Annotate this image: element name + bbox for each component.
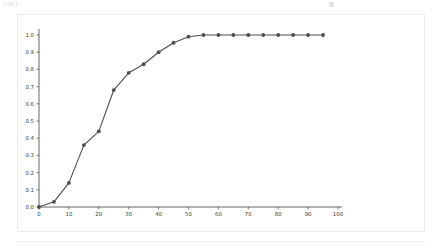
data-point-marker xyxy=(97,129,101,133)
below-panel-strip xyxy=(0,238,438,252)
data-point-marker xyxy=(246,33,250,37)
matplotlib-figure: 0.00.10.20.30.40.50.60.70.80.91.00102030… xyxy=(18,15,424,231)
data-point-marker xyxy=(142,62,146,66)
data-point-marker xyxy=(127,71,131,75)
y-axis-tick-label: 0.0 xyxy=(25,204,34,210)
data-point-marker xyxy=(187,35,191,39)
y-axis-tick-label: 0.6 xyxy=(25,101,34,107)
y-axis-tick-label: 0.5 xyxy=(25,118,34,124)
y-axis-tick-label: 0.3 xyxy=(25,152,34,158)
y-axis-tick-label: 0.7 xyxy=(25,84,34,90)
figure-output-panel: 0.00.10.20.30.40.50.60.70.80.91.00102030… xyxy=(17,14,425,232)
data-point-marker xyxy=(321,33,325,37)
data-point-marker xyxy=(202,33,206,37)
data-point-marker xyxy=(52,200,56,204)
data-point-marker xyxy=(261,33,265,37)
y-axis-tick-label: 1.0 xyxy=(25,32,34,38)
x-axis-tick-label: 30 xyxy=(125,211,132,217)
data-point-marker xyxy=(112,88,116,92)
data-point-marker xyxy=(67,181,71,185)
data-point-marker xyxy=(217,33,221,37)
y-axis-tick-label: 0.2 xyxy=(25,170,34,176)
cell-prompt-label: [28]: xyxy=(3,1,22,9)
y-axis-tick-label: 0.9 xyxy=(25,49,34,55)
x-axis-tick-label: 90 xyxy=(305,211,312,217)
data-point-marker xyxy=(82,143,86,147)
x-axis-tick-label: 40 xyxy=(155,211,162,217)
x-axis-tick-label: 50 xyxy=(185,211,192,217)
output-marker-icon xyxy=(329,2,334,7)
notebook-output-cell: [28]: 0.00.10.20.30.40.50.60.70.80.91.00… xyxy=(0,0,438,252)
x-axis-tick-label: 100 xyxy=(333,211,344,217)
cdf-line-chart: 0.00.10.20.30.40.50.60.70.80.91.00102030… xyxy=(18,15,424,231)
x-axis-tick-label: 10 xyxy=(65,211,72,217)
data-point-marker xyxy=(291,33,295,37)
data-point-marker xyxy=(276,33,280,37)
data-point-marker xyxy=(231,33,235,37)
cell-prompt-row: [28]: xyxy=(0,0,438,14)
data-point-marker xyxy=(157,50,161,54)
data-point-marker xyxy=(306,33,310,37)
data-series-line xyxy=(39,35,323,207)
x-axis-tick-label: 20 xyxy=(95,211,102,217)
x-axis-tick-label: 80 xyxy=(275,211,282,217)
y-axis-tick-label: 0.4 xyxy=(25,135,34,141)
data-point-marker xyxy=(37,205,41,209)
data-point-marker xyxy=(172,41,176,45)
x-axis-tick-label: 70 xyxy=(245,211,252,217)
divider xyxy=(17,241,425,242)
x-axis-tick-label: 60 xyxy=(215,211,222,217)
y-axis-tick-label: 0.1 xyxy=(25,187,34,193)
x-axis-tick-label: 0 xyxy=(37,211,41,217)
y-axis-tick-label: 0.8 xyxy=(25,66,34,72)
